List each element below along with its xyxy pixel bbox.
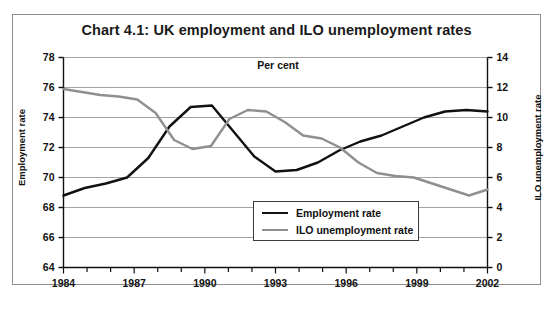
y-axis-right-tick: 6 xyxy=(497,171,523,183)
y-axis-left-tick: 70 xyxy=(29,171,55,183)
y-axis-left-tick: 74 xyxy=(29,111,55,123)
y-axis-left-tick: 76 xyxy=(29,81,55,93)
y-axis-right-tick: 0 xyxy=(497,261,523,273)
y-axis-left-tick: 78 xyxy=(29,51,55,63)
x-axis-tick: 1993 xyxy=(254,277,298,289)
y-axis-left-tick: 72 xyxy=(29,141,55,153)
y-axis-right-tick: 2 xyxy=(497,231,523,243)
x-axis-tick: 1999 xyxy=(395,277,439,289)
chart-legend: Employment rate ILO unemployment rate xyxy=(253,201,419,241)
x-axis-tick: 1987 xyxy=(112,277,156,289)
x-axis-tick: 2002 xyxy=(466,277,510,289)
chart-figure: Chart 4.1: UK employment and ILO unemplo… xyxy=(0,0,555,310)
y-axis-right-tick: 10 xyxy=(497,111,523,123)
plot-area xyxy=(0,0,555,310)
legend-label-employment: Employment rate xyxy=(296,207,381,219)
y-axis-left-tick: 64 xyxy=(29,261,55,273)
y-axis-right-tick: 14 xyxy=(497,51,523,63)
legend-item-employment: Employment rate xyxy=(262,205,381,221)
y-axis-left-tick: 66 xyxy=(29,231,55,243)
y-axis-left-tick: 68 xyxy=(29,201,55,213)
x-axis-tick: 1990 xyxy=(183,277,227,289)
y-axis-right-tick: 12 xyxy=(497,81,523,93)
legend-swatch-employment xyxy=(262,212,288,214)
legend-label-unemployment: ILO unemployment rate xyxy=(296,224,413,236)
y-axis-right-tick: 4 xyxy=(497,201,523,213)
legend-item-unemployment: ILO unemployment rate xyxy=(262,222,413,238)
y-axis-right-tick: 8 xyxy=(497,141,523,153)
x-axis-tick: 1996 xyxy=(324,277,368,289)
x-axis-tick: 1984 xyxy=(42,277,86,289)
legend-swatch-unemployment xyxy=(262,229,288,231)
